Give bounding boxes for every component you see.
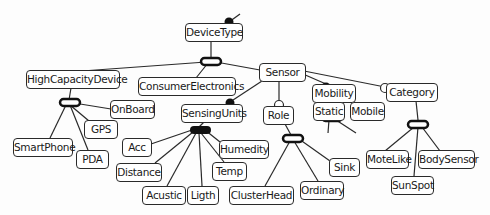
or-group-marker bbox=[190, 126, 211, 134]
feature-pda: PDA bbox=[76, 150, 109, 169]
feature-temp: Temp bbox=[212, 162, 247, 181]
feature-distance: Distance bbox=[116, 163, 162, 182]
feature-devicetype: DeviceType bbox=[185, 23, 243, 42]
feature-sensor: Sensor bbox=[259, 63, 306, 82]
feature-bodysensor: BodySensor bbox=[418, 150, 475, 169]
feature-static: Static bbox=[313, 102, 345, 121]
feature-sink: Sink bbox=[329, 158, 360, 177]
feature-humedity: Humedity bbox=[219, 140, 269, 159]
feature-consumerelectronics: ConsumerElectronics bbox=[138, 77, 236, 96]
feature-ligth: Ligth bbox=[187, 186, 219, 205]
feature-clusterhead: ClusterHead bbox=[229, 186, 294, 205]
feature-mobile: Mobile bbox=[350, 102, 385, 121]
feature-ordinary: Ordinary bbox=[300, 181, 344, 200]
feature-role: Role bbox=[263, 106, 294, 125]
feature-mobility: Mobility bbox=[312, 84, 356, 103]
feature-smartphone: SmartPhone bbox=[13, 138, 73, 157]
feature-category: Category bbox=[386, 83, 438, 102]
feature-gps: GPS bbox=[84, 120, 118, 139]
feature-sensingunits: SensingUnits bbox=[181, 104, 243, 123]
feature-sunspot: SunSpot bbox=[391, 176, 434, 195]
feature-model-diagram: DeviceType HighCapacityDevice ConsumerEl… bbox=[0, 0, 490, 215]
feature-onboard: OnBoard bbox=[110, 100, 155, 119]
feature-acustic: Acustic bbox=[142, 186, 186, 205]
feature-acc: Acc bbox=[122, 138, 152, 157]
feature-motelike: MoteLike bbox=[366, 150, 409, 169]
feature-highcapacitydevice: HighCapacityDevice bbox=[26, 70, 120, 89]
